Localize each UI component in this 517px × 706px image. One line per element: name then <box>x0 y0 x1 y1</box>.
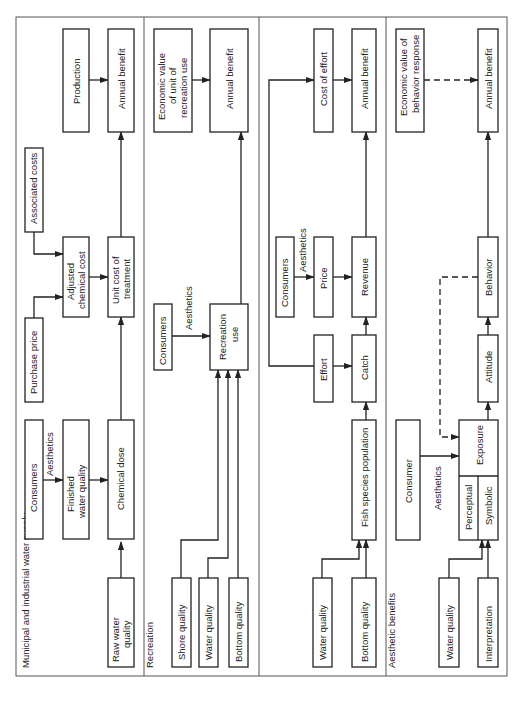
node-label: Consumers <box>28 463 39 512</box>
node-label: Consumers <box>279 258 290 307</box>
node-label: Water quality <box>203 605 214 660</box>
feedback-arrow <box>440 277 478 437</box>
node-label: Bottom quality <box>359 602 370 662</box>
node-label: Annual benefit <box>224 48 235 109</box>
svg-text:Adjusted: Adjusted <box>65 263 76 300</box>
node-perceptual: Perceptual <box>463 485 474 530</box>
svg-text:Economic value: Economic value <box>156 53 167 120</box>
node-label: Behavior <box>483 259 494 297</box>
panel-recreation: Recreation Shore quality Water quality B… <box>144 29 248 668</box>
node-label: Attitude <box>483 351 494 383</box>
node-label: Production <box>71 59 82 104</box>
svg-text:chemical cost: chemical cost <box>76 251 87 309</box>
svg-text:Finished: Finished <box>65 476 76 512</box>
edge-label: Aesthetics <box>297 228 308 272</box>
svg-text:water quality: water quality <box>76 464 87 519</box>
node-label: Annual benefit <box>116 48 127 109</box>
svg-text:Unit cost of: Unit cost of <box>110 256 121 304</box>
diagram-frame <box>16 17 507 676</box>
svg-text:Raw water: Raw water <box>110 617 121 662</box>
node-label: Water quality <box>317 605 328 660</box>
node-label: Catch <box>359 355 370 380</box>
node-label: Consumers <box>157 316 168 365</box>
panel-municipal-water-supply: Municipal and industrial water supply Ra… <box>20 29 134 668</box>
svg-text:treatment: treatment <box>121 259 132 299</box>
svg-text:of unit of: of unit of <box>167 67 178 104</box>
svg-text:use: use <box>229 327 240 342</box>
node-label: Shore quality <box>176 604 187 660</box>
node-label: Price <box>318 267 329 289</box>
node-label: Fish species population <box>359 428 370 527</box>
node-label: Cost of effort <box>318 51 329 106</box>
svg-text:quality: quality <box>121 620 132 648</box>
panel-fishing: Water quality Bottom quality Fish specie… <box>269 29 376 667</box>
panel-title: Recreation <box>144 622 155 668</box>
node-exposure: Exposure <box>474 425 485 465</box>
svg-text:recreation use: recreation use <box>178 58 189 118</box>
node-label: Water quality <box>444 605 455 660</box>
node-label: Chemical dose <box>115 447 126 510</box>
panel-title: Aesthetic benefits <box>386 593 397 668</box>
svg-text:behavior response: behavior response <box>410 35 421 113</box>
node-label: Consumer <box>403 459 414 503</box>
node-label: Purchase price <box>28 331 39 394</box>
node-symbolic: Symbolic <box>483 486 494 525</box>
node-label: Annual benefit <box>483 48 494 109</box>
panel-aesthetic-benefits: Aesthetic benefits Water quality Interpr… <box>386 29 498 668</box>
node-label: Revenue <box>359 258 370 296</box>
node-label: Annual benefit <box>359 48 370 109</box>
node-label: Effort <box>318 358 329 381</box>
node-label: Bottom quality <box>233 602 244 662</box>
node-label: Interpretation <box>483 606 494 662</box>
edge-label: Aesthetics <box>44 432 55 476</box>
svg-text:Recreation: Recreation <box>217 314 228 360</box>
edge-label: Aesthetics <box>432 466 443 510</box>
svg-text:Economic value of: Economic value of <box>398 38 409 116</box>
edge-label: Aesthetics <box>183 286 194 330</box>
benefit-flow-diagram: Municipal and industrial water supply Ra… <box>0 0 517 706</box>
node-label: Associated costs <box>28 152 39 224</box>
